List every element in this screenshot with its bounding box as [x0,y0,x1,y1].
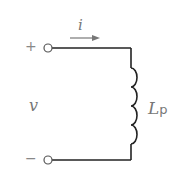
bottom-terminal [44,156,52,164]
inductor-coil [131,68,137,144]
inductor-subscript: p [159,102,167,117]
minus-sign: − [25,150,37,166]
circuit-diagram [0,0,181,170]
current-label: i [78,16,83,34]
top-terminal [44,44,52,52]
voltage-label: v [29,96,38,115]
plus-sign: + [25,38,37,54]
top-wire [52,48,131,68]
current-arrow-icon [70,35,100,41]
inductor-label: Lp [148,98,168,118]
bottom-wire [52,144,131,160]
inductor-symbol: L [148,98,159,118]
